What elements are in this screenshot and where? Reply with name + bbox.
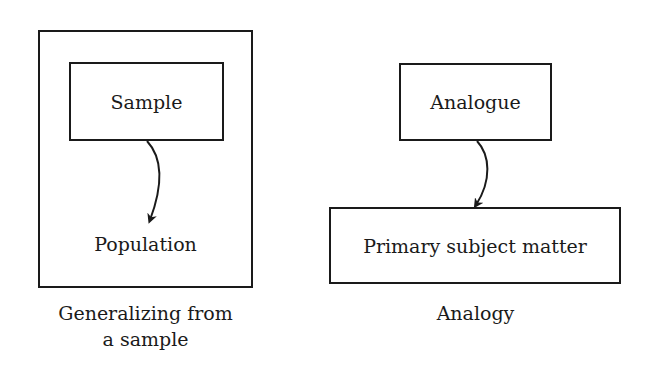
- sample-to-population-arrow: [147, 141, 159, 220]
- analogue-to-primary-arrow: [476, 141, 487, 205]
- arrows-layer: [0, 0, 649, 377]
